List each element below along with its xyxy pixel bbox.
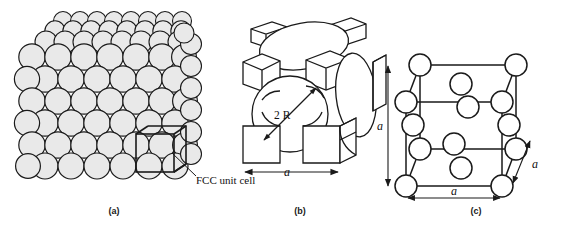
panel-a-aggregate [14,12,201,180]
fcc-structure-figure: 2 R a [0,0,569,233]
edge-length-label-c-bottom: a [451,184,457,198]
panel-label-a: (a) [96,206,132,216]
edge-length-label-c-depth: a [532,157,538,171]
diameter-label: 2 R [274,109,291,121]
panel-label-b: (b) [282,206,318,216]
corner-wedge-right [373,55,386,111]
aggregate-front-rows [14,44,197,179]
panel-b-hard-sphere-cell: 2 R a [243,16,386,179]
edge-length-label-c-vertical: a [377,119,383,133]
figure-canvas: 2 R a [0,0,569,233]
edge-length-label-b: a [284,165,290,179]
corner-block-bottom-front-left [243,126,280,163]
panel-label-c: (c) [458,206,494,216]
corner-block-bottom-front-right [303,126,340,163]
panel-c-reduced-sphere-cell: a a a [377,54,538,198]
fcc-unit-cell-callout-label: FCC unit cell [196,174,255,186]
